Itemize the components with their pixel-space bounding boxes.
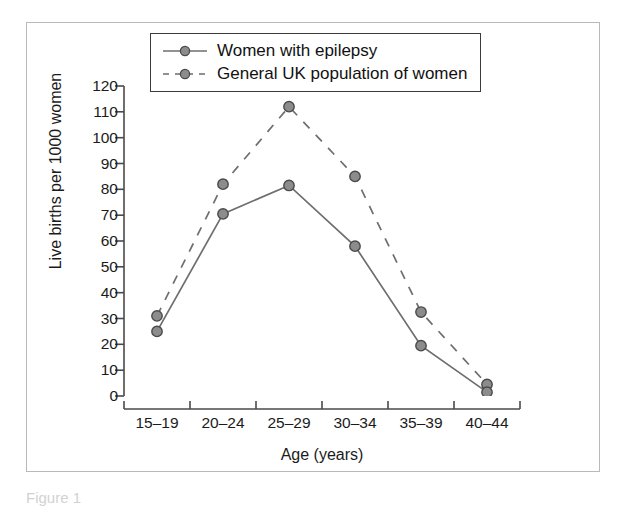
- legend-key-solid-line-icon: [162, 44, 208, 58]
- y-tick-label: 120: [84, 78, 118, 94]
- legend-key-dashed-line-icon: [162, 67, 208, 81]
- x-tick-label: 20–24: [190, 414, 256, 438]
- y-tick-label: 100: [84, 130, 118, 146]
- legend-label: General UK population of women: [217, 64, 467, 84]
- x-tick-label: 35–39: [388, 414, 454, 438]
- x-tick-label: 15–19: [124, 414, 190, 438]
- markers-women-with-epilepsy: [152, 180, 492, 396]
- x-axis-tick-labels: 15–19 20–24 25–29 30–34 35–39 40–44: [124, 414, 520, 438]
- y-tick-label: 50: [84, 259, 118, 275]
- x-axis-title: Age (years): [124, 446, 520, 464]
- y-axis-tick-labels: 120 110 100 90 80 70 60 50 40 30 20 10 0: [80, 0, 118, 510]
- x-tick-label: 30–34: [322, 414, 388, 438]
- legend-entry-general-uk-population: General UK population of women: [162, 62, 467, 85]
- legend-label: Women with epilepsy: [217, 41, 377, 61]
- chart-legend: Women with epilepsy General UK populatio…: [150, 33, 481, 92]
- y-tick-label: 90: [84, 156, 118, 172]
- y-tick-label: 0: [84, 388, 118, 404]
- series-general-uk-population: [157, 107, 487, 385]
- y-tick-label: 80: [84, 181, 118, 197]
- y-tick-label: 20: [84, 336, 118, 352]
- legend-entry-women-with-epilepsy: Women with epilepsy: [162, 39, 467, 62]
- y-axis-title: Live births per 1000 women: [47, 51, 65, 291]
- plot-area: [124, 86, 520, 396]
- y-tick-label: 40: [84, 285, 118, 301]
- y-tick-label: 10: [84, 362, 118, 378]
- x-tick-label: 25–29: [256, 414, 322, 438]
- y-tick-label: 70: [84, 207, 118, 223]
- x-tick-label: 40–44: [454, 414, 520, 438]
- y-tick-label: 30: [84, 311, 118, 327]
- figure: 120 110 100 90 80 70 60 50 40 30 20 10 0…: [0, 0, 628, 510]
- y-tick-label: 60: [84, 233, 118, 249]
- y-tick-label: 110: [84, 104, 118, 120]
- figure-caption: Figure 1: [26, 489, 326, 507]
- markers-general-uk-population: [152, 101, 492, 389]
